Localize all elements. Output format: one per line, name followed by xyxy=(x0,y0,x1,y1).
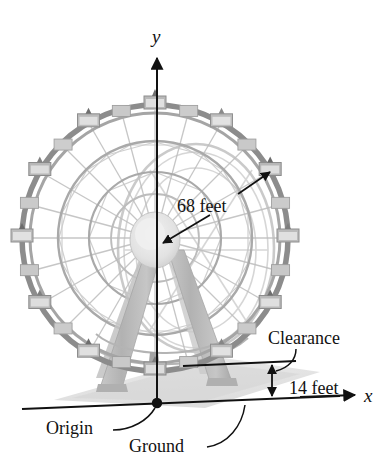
y-axis-label: y xyxy=(152,27,160,46)
clearance-label: Clearance xyxy=(268,329,340,347)
diameter-arrow-outward xyxy=(238,172,270,194)
ground-leader xyxy=(207,405,245,447)
origin-point xyxy=(152,398,162,408)
origin-leader xyxy=(113,408,155,430)
x-axis-label: x xyxy=(364,386,372,405)
ground-label: Ground xyxy=(129,437,184,455)
origin-label: Origin xyxy=(46,419,93,437)
clearance-value-label: 14 feet xyxy=(289,379,338,397)
diameter-arrow-inward xyxy=(163,215,210,243)
ferris-wheel-figure: y x 68 feet Clearance 14 feet Origin Gro… xyxy=(0,0,384,472)
annotation-overlay xyxy=(0,0,384,472)
diameter-label: 68 feet xyxy=(177,197,226,215)
clearance-line xyxy=(183,361,296,366)
clearance-leader xyxy=(276,349,296,371)
